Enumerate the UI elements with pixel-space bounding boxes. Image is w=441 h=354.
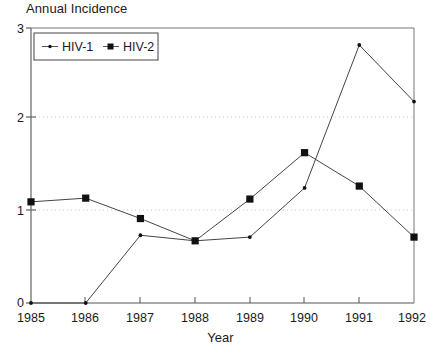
x-axis-ticks: 1985 1986 1987 1988 1989 1990 1991 1992 <box>17 297 426 325</box>
x-tick-label-1988: 1988 <box>181 311 209 325</box>
data-point-dot[interactable] <box>248 235 252 239</box>
filled-square-icon <box>108 44 114 50</box>
legend-label-hiv-1: HIV-1 <box>62 40 93 54</box>
data-point-square[interactable] <box>137 215 144 222</box>
data-point-dot[interactable] <box>139 233 143 237</box>
y-tick-label-1: 1 <box>17 204 24 218</box>
x-tick-label-1992: 1992 <box>398 311 426 325</box>
data-point-dot[interactable] <box>303 186 307 190</box>
plot-axes <box>31 28 414 303</box>
data-point-square[interactable] <box>246 195 253 202</box>
data-point-square[interactable] <box>27 198 34 205</box>
data-point-dot[interactable] <box>29 301 33 305</box>
data-point-dot[interactable] <box>84 301 88 305</box>
small-dot-icon <box>48 45 51 48</box>
data-point-square[interactable] <box>301 149 308 156</box>
x-axis-title: Year <box>0 330 441 345</box>
series-line-hiv-1 <box>31 45 414 303</box>
y-tick-label-2: 2 <box>17 111 24 125</box>
x-tick-label-1990: 1990 <box>290 311 318 325</box>
legend-label-hiv-2: HIV-2 <box>123 40 154 54</box>
x-tick-label-1987: 1987 <box>126 311 154 325</box>
y-axis-ticks: 0 1 2 3 <box>17 22 36 310</box>
x-tick-label-1986: 1986 <box>71 311 99 325</box>
data-series-layer <box>27 43 417 305</box>
chart-container: Annual Incidence 0 1 2 3 <box>0 0 441 354</box>
data-point-square[interactable] <box>82 195 89 202</box>
x-tick-label-1985: 1985 <box>17 311 45 325</box>
data-point-dot[interactable] <box>412 100 416 104</box>
x-tick-label-1989: 1989 <box>236 311 264 325</box>
y-tick-label-0: 0 <box>17 296 24 310</box>
data-point-square[interactable] <box>356 182 363 189</box>
series-hiv-2 <box>27 149 417 244</box>
chart-legend: HIV-1 HIV-2 <box>34 33 158 60</box>
line-chart-plot: 0 1 2 3 1985 1986 1987 1988 1989 1990 19… <box>0 0 441 354</box>
x-tick-label-1991: 1991 <box>345 311 373 325</box>
data-point-square[interactable] <box>192 237 199 244</box>
y-tick-label-3: 3 <box>17 22 24 36</box>
data-point-square[interactable] <box>410 234 417 241</box>
series-hiv-1 <box>29 43 416 305</box>
data-point-dot[interactable] <box>357 43 361 47</box>
